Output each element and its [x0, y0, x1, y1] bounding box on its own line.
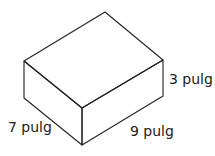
width-label: 7 pulg — [8, 120, 52, 134]
height-label: 3 pulg — [169, 72, 213, 86]
prism-top-face — [24, 12, 163, 108]
length-label: 9 pulg — [130, 124, 174, 138]
